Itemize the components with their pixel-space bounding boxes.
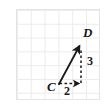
point-c-dot — [58, 83, 60, 85]
vertical-component-label: 3 — [87, 55, 93, 67]
point-label-d: D — [83, 26, 92, 39]
vector-graphics-layer — [0, 0, 112, 111]
vector-diagram-figure: D C 2 3 — [0, 0, 112, 111]
horizontal-component-label: 2 — [64, 85, 70, 97]
point-label-c: C — [47, 80, 56, 93]
vector-cd-line — [59, 46, 80, 84]
